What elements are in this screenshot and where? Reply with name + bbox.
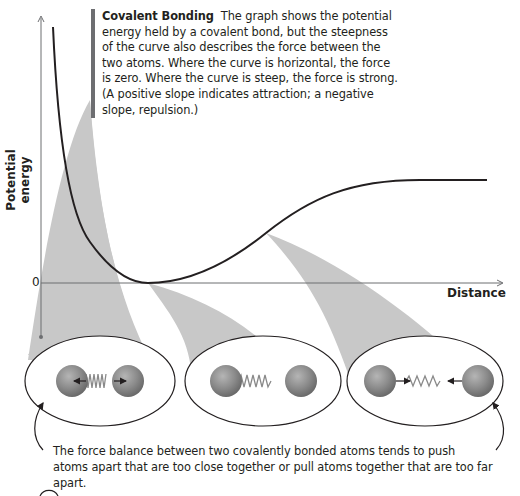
bottom-caption: The force balance between two covalently…	[53, 443, 493, 491]
zero-tick-label: 0	[32, 275, 40, 289]
caption-title: Covalent Bonding	[102, 9, 214, 23]
atom-icon	[462, 365, 494, 397]
fan-close-shape	[28, 100, 150, 360]
y-axis-label: Potential energy	[4, 125, 32, 235]
x-axis-label: Distance	[447, 286, 506, 300]
atom-icon	[364, 365, 396, 397]
decorative-circle-partial	[40, 490, 58, 496]
inset-ellipse-close	[25, 336, 175, 426]
atom-icon	[210, 365, 242, 397]
caption-body: The graph shows the potential energy hel…	[102, 9, 398, 117]
pointer-arrow-right-icon	[493, 403, 504, 450]
atom-icon	[285, 365, 317, 397]
caption-block: Covalent Bonding The graph shows the pot…	[91, 9, 402, 118]
